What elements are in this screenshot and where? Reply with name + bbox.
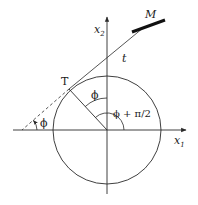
manipulator-segment bbox=[132, 20, 165, 32]
x2-axis-label: x2 bbox=[94, 23, 105, 38]
x1-axis-label: x1 bbox=[174, 134, 185, 149]
label-t: t bbox=[122, 52, 127, 65]
label-phi-axis: ϕ bbox=[40, 117, 48, 130]
tangent-line bbox=[69, 28, 143, 89]
label-phi-plus-pi-over-2: ϕ + π/2 bbox=[113, 108, 151, 119]
label-M: M bbox=[144, 8, 157, 21]
label-T: T bbox=[61, 75, 69, 88]
angle-arc-axis bbox=[33, 120, 37, 130]
radius-to-T bbox=[69, 89, 107, 130]
geometry-diagram: x2 x1 M t T ϕ ϕ + π/2 ϕ bbox=[0, 0, 198, 205]
label-phi-center: ϕ bbox=[91, 89, 99, 102]
